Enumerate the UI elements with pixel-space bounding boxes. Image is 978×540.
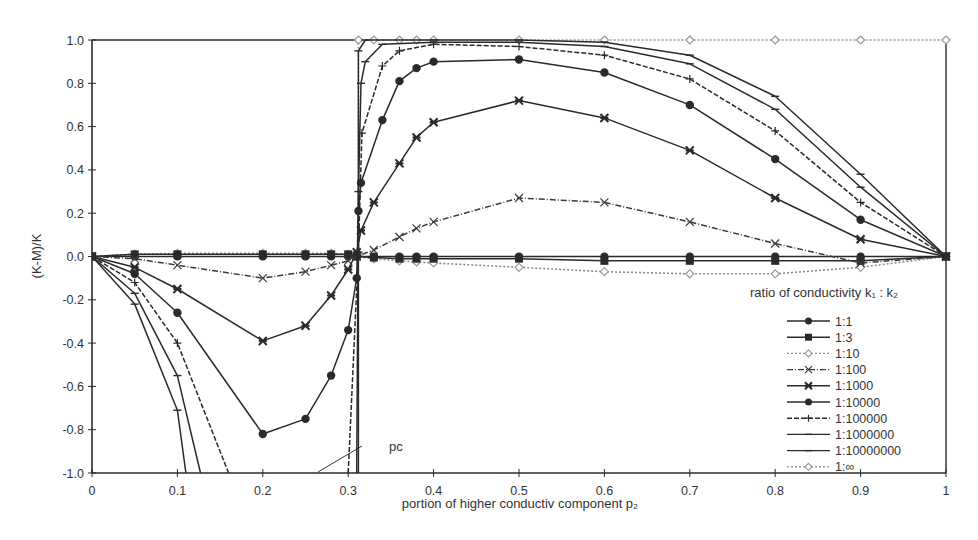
y-tick-label: -0.8 — [62, 423, 84, 437]
x-tick-label: 0 — [89, 484, 96, 498]
x-tick-label: 0.1 — [169, 484, 186, 498]
legend-item: 1:100000 — [787, 412, 887, 426]
legend-label: 1:10000000 — [835, 444, 901, 458]
legend: ratio of conductivity k₁ : k₂ 1:11:31:10… — [750, 285, 901, 474]
legend-item: 1:1000000 — [787, 428, 894, 442]
y-axis-title: (K-M)/K — [29, 233, 44, 278]
legend-label: 1:1000000 — [835, 428, 894, 442]
series-1-1000 — [88, 97, 950, 345]
y-tick-label: 0.6 — [67, 120, 84, 134]
y-tick-label: 0.8 — [67, 77, 84, 91]
legend-label: 1:10 — [835, 347, 859, 361]
legend-label: 1:1 — [835, 315, 852, 329]
legend-item: 1:10000 — [787, 396, 880, 410]
y-tick-label: -0.4 — [62, 337, 84, 351]
legend-label: 1:3 — [835, 331, 852, 345]
legend-item: 1:1000 — [787, 379, 873, 393]
y-tick-label: 0.0 — [67, 250, 84, 264]
legend-label: 1:100 — [835, 363, 866, 377]
x-axis-title: portion of higher conductiv component p₂ — [402, 496, 638, 511]
y-tick-label: 1.0 — [67, 34, 84, 48]
legend-item: 1:3 — [787, 331, 852, 345]
pc-label: pᴄ — [389, 439, 403, 454]
x-tick-label: 0.3 — [340, 484, 357, 498]
y-tick-label: -0.6 — [62, 380, 84, 394]
legend-item: 1:1 — [787, 315, 852, 329]
legend-item: 1:10000000 — [787, 444, 901, 458]
x-tick-label: 0.9 — [852, 484, 869, 498]
series-layer — [88, 36, 950, 473]
y-tick-label: 0.4 — [67, 163, 84, 177]
legend-item: 1:∞ — [787, 460, 854, 474]
x-tick-label: 0.7 — [681, 484, 698, 498]
y-tick-label: 0.2 — [67, 207, 84, 221]
legend-item: 1:10 — [787, 347, 859, 361]
pc-annotation: pᴄ — [318, 439, 403, 472]
legend-item: 1:100 — [787, 363, 866, 377]
x-tick-label: 1 — [943, 484, 950, 498]
legend-label: 1:100000 — [835, 412, 887, 426]
x-tick-label: 0.2 — [254, 484, 271, 498]
legend-label: 1:∞ — [835, 460, 854, 474]
series-1-- — [88, 36, 950, 261]
x-tick-label: 0.8 — [767, 484, 784, 498]
series-1-10000 — [88, 55, 950, 438]
y-tick-label: -0.2 — [62, 293, 84, 307]
legend-label: 1:1000 — [835, 379, 873, 393]
legend-label: 1:10000 — [835, 396, 880, 410]
y-tick-label: -1.0 — [62, 467, 84, 481]
conductivity-chart: 00.10.20.30.40.50.60.70.80.911.00.80.60.… — [0, 0, 978, 540]
legend-title: ratio of conductivity k₁ : k₂ — [750, 285, 898, 300]
